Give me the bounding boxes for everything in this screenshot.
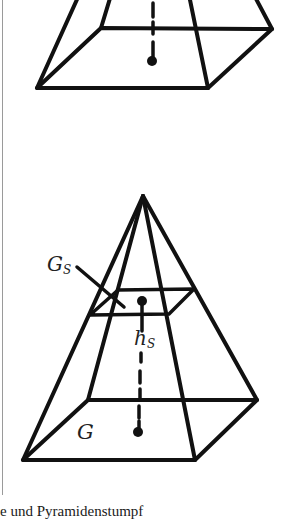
label-base-area: G [77,420,94,444]
section-centroid-dot [137,296,147,306]
label-gs-sub: S [63,263,71,277]
label-hs-main: h [134,326,147,350]
label-cross-section-area: GS [47,252,71,277]
label-section-height: hS [134,326,155,351]
label-hs-sub: S [147,337,155,351]
base-centroid-dot [133,427,143,437]
bottom-height-dashed [139,305,142,430]
pyramid-figures [0,0,288,500]
figure-caption: e und Pyramidenstumpf [0,503,143,520]
top-centroid-dot [147,56,157,66]
label-gs-main: G [47,252,63,276]
